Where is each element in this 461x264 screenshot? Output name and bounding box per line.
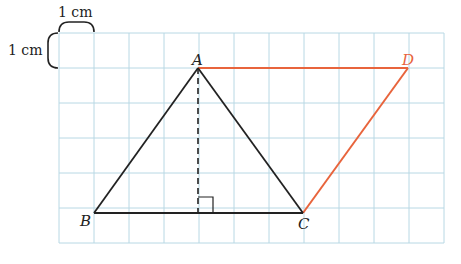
right-angle-marker — [198, 197, 213, 213]
vertical-scale-label: 1 cm — [8, 42, 42, 58]
point-label-A: A — [190, 51, 203, 69]
grid — [59, 33, 444, 243]
scale-brackets: 1 cm 1 cm — [8, 4, 94, 68]
point-label-B: B — [79, 212, 91, 230]
segment-DC — [303, 68, 408, 213]
point-label-D: D — [401, 51, 414, 69]
horizontal-scale-label: 1 cm — [58, 4, 92, 20]
horizontal-scale-bracket — [59, 22, 94, 32]
point-label-C: C — [298, 215, 310, 233]
segment-AC — [198, 68, 303, 213]
figure — [94, 68, 408, 213]
vertical-scale-bracket — [48, 33, 58, 68]
segment-AB — [94, 68, 198, 213]
diagram-canvas: 1 cm 1 cm A B C D — [0, 0, 461, 264]
